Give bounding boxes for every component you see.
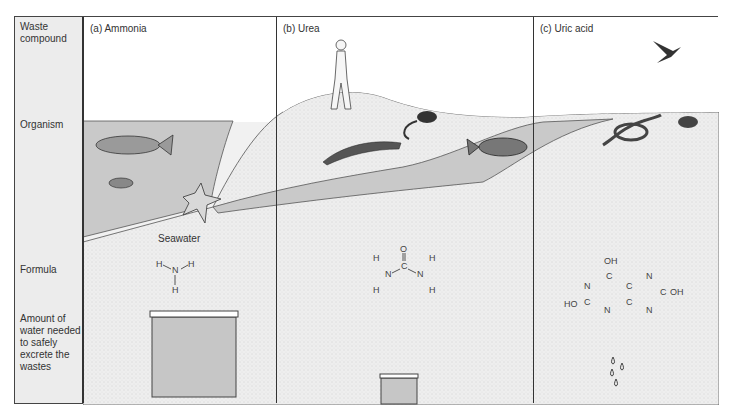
- svg-text:HO: HO: [564, 299, 578, 309]
- svg-text:OH: OH: [604, 256, 618, 266]
- svg-text:OH: OH: [670, 287, 684, 297]
- diagram-frame: Waste compound Organism Formula Amount o…: [14, 16, 718, 404]
- svg-text:N: N: [172, 265, 179, 275]
- row-label-formula: Formula: [20, 264, 57, 276]
- svg-text:H: H: [188, 259, 195, 269]
- row-label-organism: Organism: [20, 119, 63, 131]
- row-label-waste-compound: Waste compound: [20, 21, 80, 45]
- column-title-uric-acid: (c) Uric acid: [540, 23, 593, 34]
- svg-text:C: C: [401, 261, 408, 271]
- svg-text:O: O: [400, 244, 407, 254]
- svg-text:C: C: [660, 287, 667, 297]
- svg-text:N: N: [584, 281, 591, 291]
- svg-text:H: H: [429, 285, 436, 295]
- column-uric-acid: (c) Uric acid OHCNC CCN NNCOHHO: [534, 17, 719, 403]
- svg-text:C: C: [626, 281, 633, 291]
- column-title-ammonia: (a) Ammonia: [90, 23, 147, 34]
- svg-text:N: N: [417, 269, 424, 279]
- svg-text:C: C: [626, 297, 633, 307]
- svg-text:C: C: [584, 297, 591, 307]
- urea-formula: OCNN HHHH: [369, 243, 439, 295]
- water-beaker-small: [379, 373, 419, 405]
- svg-text:N: N: [646, 271, 653, 281]
- ammonia-formula: HNHH: [154, 255, 204, 299]
- svg-text:N: N: [646, 305, 653, 315]
- svg-text:N: N: [385, 269, 392, 279]
- svg-text:C: C: [606, 271, 613, 281]
- svg-text:N: N: [604, 305, 611, 315]
- svg-text:H: H: [172, 285, 179, 295]
- row-label-column: Waste compound Organism Formula Amount o…: [15, 17, 83, 403]
- uric-acid-formula: OHCNC CCN NNCOHHO: [564, 255, 684, 315]
- water-drops-icon: [608, 355, 628, 391]
- water-beaker-large: [148, 309, 240, 401]
- column-title-urea: (b) Urea: [283, 23, 320, 34]
- svg-text:H: H: [156, 259, 163, 269]
- column-urea: (b) Urea OCNN HHHH: [277, 17, 533, 403]
- column-ammonia: (a) Ammonia Seawater HNHH: [84, 17, 276, 403]
- seawater-label: Seawater: [158, 233, 200, 244]
- row-label-water-amount: Amount of water needed to safely excrete…: [20, 313, 82, 373]
- svg-text:H: H: [429, 253, 436, 263]
- svg-text:H: H: [373, 285, 380, 295]
- svg-text:H: H: [373, 253, 380, 263]
